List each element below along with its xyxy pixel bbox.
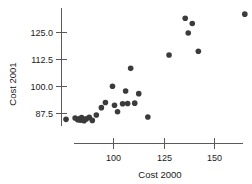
data-points-layer xyxy=(63,11,247,123)
data-point xyxy=(63,117,69,123)
data-point xyxy=(242,11,248,17)
data-point xyxy=(94,112,100,118)
x-axis-title: Cost 2000 xyxy=(138,169,181,180)
x-tick-label-100: 100 xyxy=(106,153,121,163)
data-point xyxy=(99,105,105,111)
data-point xyxy=(123,88,129,94)
y-tick-label-100: 100.0 xyxy=(30,82,53,92)
data-point xyxy=(166,52,172,58)
data-point xyxy=(185,30,191,36)
scatter-chart-container: 125.0 112.5 100.0 87.5 Cost 2001 100 125… xyxy=(0,0,252,184)
data-point xyxy=(112,102,118,108)
data-point xyxy=(120,101,126,107)
data-point xyxy=(132,100,138,106)
y-axis-title: Cost 2001 xyxy=(7,62,18,105)
data-point xyxy=(189,21,195,27)
x-tick-label-150: 150 xyxy=(207,153,222,163)
y-tick-label-125: 125.0 xyxy=(30,28,53,38)
data-point xyxy=(145,114,151,120)
data-point xyxy=(196,48,202,54)
y-tick-label-112-5: 112.5 xyxy=(31,55,53,65)
scatter-plot: 125.0 112.5 100.0 87.5 Cost 2001 100 125… xyxy=(0,0,252,184)
data-point xyxy=(128,66,134,72)
data-point xyxy=(125,101,131,107)
data-point xyxy=(115,109,121,115)
data-point xyxy=(103,100,109,106)
x-tick-label-125: 125 xyxy=(157,153,172,163)
data-point xyxy=(136,91,142,97)
data-point xyxy=(89,118,95,124)
y-tick-label-87-5: 87.5 xyxy=(35,109,53,119)
data-point xyxy=(182,15,188,21)
data-point xyxy=(110,83,116,89)
